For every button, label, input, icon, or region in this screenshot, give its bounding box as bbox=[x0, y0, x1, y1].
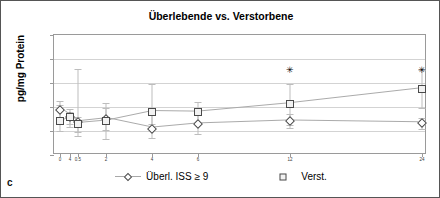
error-bar-cap bbox=[149, 84, 156, 85]
data-point-diamond bbox=[193, 119, 203, 129]
data-point-square bbox=[74, 120, 82, 128]
data-point-square bbox=[286, 100, 294, 108]
data-point-square bbox=[148, 108, 156, 116]
legend-label-verstorbene: Verst. bbox=[301, 171, 327, 182]
chart-legend: Überl. ISS ≥ 9 Verst. bbox=[1, 171, 440, 182]
x-tick-label: 12 bbox=[287, 157, 292, 162]
significance-star: ✳ bbox=[418, 65, 426, 74]
error-bar-cap bbox=[57, 131, 64, 132]
legend-item-ueberlebende[interactable]: Überl. ISS ≥ 9 bbox=[115, 171, 208, 182]
gridline bbox=[54, 131, 425, 132]
error-bar-cap bbox=[75, 136, 82, 137]
data-point-square bbox=[194, 108, 202, 116]
error-bar-cap bbox=[195, 134, 202, 135]
gridline bbox=[54, 83, 425, 84]
x-tick-label: 4 bbox=[69, 157, 72, 162]
error-bar-cap bbox=[75, 69, 82, 70]
error-bar-cap bbox=[103, 130, 110, 131]
error-bar-cap bbox=[103, 108, 110, 109]
x-tick-label: 24 bbox=[419, 157, 424, 162]
y-tick-mark bbox=[50, 107, 54, 108]
error-bar-cap bbox=[75, 132, 82, 133]
data-point-square bbox=[102, 117, 110, 125]
significance-star: ✳ bbox=[286, 65, 294, 74]
y-tick-mark bbox=[50, 131, 54, 132]
error-bar-cap bbox=[103, 139, 110, 140]
plot-area: 0246810 040.52461224 ✳✳ bbox=[53, 34, 426, 154]
series-line bbox=[62, 88, 418, 122]
chart-title: Überlebende vs. Verstorbene bbox=[1, 10, 440, 22]
y-tick-mark bbox=[50, 59, 54, 60]
y-tick-mark bbox=[50, 35, 54, 36]
x-tick-label: 2 bbox=[105, 157, 108, 162]
square-marker-icon bbox=[270, 172, 296, 182]
x-tick-label: 0.5 bbox=[75, 157, 81, 162]
data-point-square bbox=[418, 85, 426, 93]
error-bar-cap bbox=[419, 108, 426, 109]
gridline bbox=[54, 59, 425, 60]
error-bar-cap bbox=[287, 128, 294, 129]
data-point-diamond bbox=[417, 118, 427, 128]
error-bar-cap bbox=[103, 103, 110, 104]
diamond-marker-icon bbox=[115, 172, 141, 182]
error-bar-cap bbox=[195, 102, 202, 103]
error-bar-cap bbox=[419, 129, 426, 130]
series-lines bbox=[54, 35, 425, 153]
y-axis-label: pg/mg Protein bbox=[15, 14, 26, 124]
error-bar-cap bbox=[57, 101, 64, 102]
error-bar-cap bbox=[67, 127, 74, 128]
error-bar-cap bbox=[287, 84, 294, 85]
series-line bbox=[62, 109, 418, 127]
data-point-square bbox=[56, 117, 64, 125]
x-tick-label: 4 bbox=[151, 157, 154, 162]
legend-label-ueberlebende: Überl. ISS ≥ 9 bbox=[146, 171, 208, 182]
legend-item-verstorbene[interactable]: Verst. bbox=[270, 171, 327, 182]
data-point-square bbox=[66, 113, 74, 121]
gridline bbox=[54, 107, 425, 108]
y-tick-mark bbox=[50, 83, 54, 84]
y-tick-mark bbox=[50, 155, 54, 156]
chart-figure: Überlebende vs. Verstorbene pg/mg Protei… bbox=[0, 0, 440, 198]
x-tick-label: 6 bbox=[197, 157, 200, 162]
x-tick-label: 0 bbox=[59, 157, 62, 162]
error-bar-cap bbox=[149, 138, 156, 139]
error-bar-cap bbox=[67, 109, 74, 110]
error-bar bbox=[152, 84, 153, 124]
